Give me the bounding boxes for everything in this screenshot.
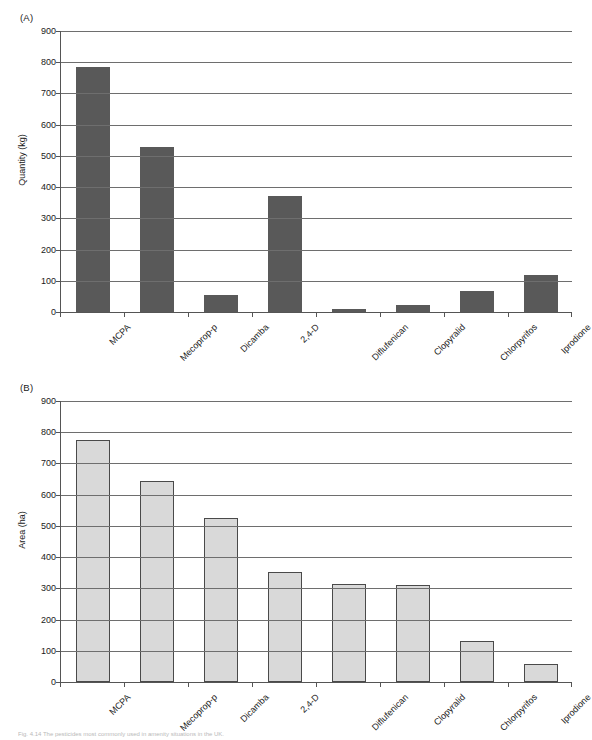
- x-axis-category-label: Dicamba: [238, 322, 270, 354]
- y-axis-tick-label: 100: [41, 276, 56, 285]
- x-axis-category-label: Clopyralid: [431, 692, 466, 727]
- y-axis-label-b: Area (ha): [17, 475, 27, 585]
- y-axis-tick-labels-a: 0100200300400500600700800900: [28, 31, 56, 312]
- gridline: [61, 125, 572, 126]
- gridline: [61, 250, 572, 251]
- bar: [460, 291, 493, 312]
- x-axis-category-label: Diflufenican: [369, 692, 409, 732]
- y-axis-tick-label: 700: [41, 89, 56, 98]
- plot-area-a: [60, 31, 572, 312]
- x-axis-tick-mark: [508, 312, 509, 317]
- x-axis-category-label: Clopyralid: [431, 322, 466, 357]
- x-axis-tick-mark: [252, 312, 253, 317]
- figure-caption: Fig. 4.14 The pesticides most commonly u…: [18, 731, 578, 740]
- bar: [140, 481, 173, 682]
- y-axis-tick-label: 100: [41, 646, 56, 655]
- x-axis-tick-mark: [508, 682, 509, 687]
- gridline: [61, 93, 572, 94]
- y-axis-tick-label: 800: [41, 58, 56, 67]
- gridline: [61, 401, 572, 402]
- x-axis-category-label: 2,4-D: [298, 692, 321, 715]
- y-axis-tick-label: 300: [41, 214, 56, 223]
- x-axis-category-label: Iprodione: [559, 692, 592, 726]
- y-axis-tick-label: 200: [41, 245, 56, 254]
- x-axis-tick-mark: [444, 682, 445, 687]
- x-axis-tick-mark: [188, 312, 189, 317]
- x-axis-tick-mark: [380, 682, 381, 687]
- y-axis-tick-label: 600: [41, 490, 56, 499]
- bar: [76, 67, 109, 312]
- gridline: [61, 31, 572, 32]
- gridline: [61, 187, 572, 188]
- gridline: [61, 432, 572, 433]
- plot-wrapper-a: Quantity (kg) 01002003004005006007008009…: [0, 0, 590, 370]
- gridline: [61, 620, 572, 621]
- plot-wrapper-b: Area (ha) 0100200300400500600700800900 M…: [0, 370, 590, 740]
- y-axis-tick-label: 700: [41, 459, 56, 468]
- y-axis-tick-label: 800: [41, 428, 56, 437]
- y-axis-tick-label: 900: [41, 397, 56, 406]
- x-axis-category-label: Mecoprop-p: [178, 692, 219, 733]
- y-axis-tick-label: 400: [41, 183, 56, 192]
- x-axis-tick-mark: [124, 312, 125, 317]
- gridline: [61, 218, 572, 219]
- x-axis-tick-mark: [444, 312, 445, 317]
- y-axis-tick-label: 500: [41, 151, 56, 160]
- x-axis-category-label: Chlorpyrifos: [498, 692, 539, 733]
- x-axis-category-label: MCPA: [107, 692, 132, 717]
- gridline: [61, 156, 572, 157]
- bar: [524, 664, 557, 682]
- x-axis-tick-mark: [60, 312, 61, 317]
- gridline: [61, 651, 572, 652]
- bar: [396, 585, 429, 682]
- gridline: [61, 495, 572, 496]
- bar: [204, 518, 237, 682]
- bars-layer-a: [61, 31, 572, 312]
- bar: [76, 440, 109, 682]
- x-axis-tick-mark: [571, 682, 572, 687]
- gridline: [61, 588, 572, 589]
- x-axis-category-label: MCPA: [107, 322, 132, 347]
- x-axis-tick-mark: [188, 682, 189, 687]
- bar: [396, 305, 429, 312]
- y-axis-tick-labels-b: 0100200300400500600700800900: [28, 401, 56, 682]
- bar: [140, 147, 173, 312]
- x-axis-tick-mark: [60, 682, 61, 687]
- x-axis-tick-mark: [571, 312, 572, 317]
- gridline: [61, 62, 572, 63]
- x-axis-category-label: 2,4-D: [298, 322, 321, 345]
- x-axis-category-label: Dicamba: [238, 692, 270, 724]
- y-axis-tick-label: 200: [41, 615, 56, 624]
- gridline: [61, 281, 572, 282]
- x-axis-ticks-b: [60, 682, 572, 687]
- bars-layer-b: [61, 401, 572, 682]
- gridline: [61, 463, 572, 464]
- plot-area-b: [60, 401, 572, 682]
- bar: [204, 295, 237, 312]
- x-axis-tick-mark: [316, 682, 317, 687]
- x-axis-tick-mark: [316, 312, 317, 317]
- x-axis-tick-mark: [380, 312, 381, 317]
- x-axis-ticks-a: [60, 312, 572, 317]
- gridline: [61, 557, 572, 558]
- x-axis-category-label: Mecoprop-p: [178, 322, 219, 363]
- y-axis-label-a: Quantity (kg): [17, 105, 27, 215]
- y-axis-tick-label: 600: [41, 120, 56, 129]
- bar: [460, 641, 493, 682]
- chart-panel-b: (B) Area (ha) 01002003004005006007008009…: [0, 370, 590, 740]
- x-axis-tick-mark: [252, 682, 253, 687]
- gridline: [61, 526, 572, 527]
- y-axis-tick-label: 400: [41, 553, 56, 562]
- x-axis-tick-mark: [124, 682, 125, 687]
- x-axis-category-label: Iprodione: [559, 322, 592, 356]
- x-axis-category-label: Chlorpyrifos: [498, 322, 539, 363]
- x-axis-category-label: Diflufenican: [369, 322, 409, 362]
- y-axis-tick-label: 500: [41, 521, 56, 530]
- y-axis-tick-label: 300: [41, 584, 56, 593]
- chart-panel-a: (A) Quantity (kg) 0100200300400500600700…: [0, 0, 590, 370]
- y-axis-tick-label: 900: [41, 27, 56, 36]
- bar: [268, 196, 301, 312]
- bar: [332, 584, 365, 682]
